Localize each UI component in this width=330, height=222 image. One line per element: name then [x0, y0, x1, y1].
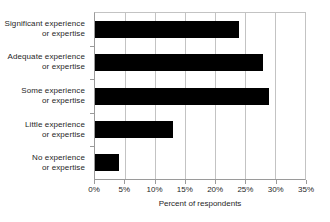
x-axis-tick-label-35: 35%: [298, 185, 314, 195]
y-axis-label-line-2: or expertise: [42, 62, 85, 72]
x-axis-tick-25: [245, 180, 246, 184]
x-axis-tick-label-30: 30%: [268, 185, 284, 195]
y-axis-label-line-1: Significant experience: [5, 19, 85, 29]
x-axis-tick-15: [185, 180, 186, 184]
bar-series: [95, 13, 305, 179]
x-axis-tick-35: [306, 180, 307, 184]
y-axis-label-line-1: Some experience: [21, 86, 85, 96]
x-axis-tick-labels: 0%5%10%15%20%25%30%35%: [94, 185, 306, 196]
x-axis-tick-label-0: 0%: [88, 185, 100, 195]
x-axis-tick-label-25: 25%: [237, 185, 253, 195]
bar-1: [95, 54, 263, 71]
x-axis-tick-label-15: 15%: [177, 185, 193, 195]
y-axis-label-line-2: or expertise: [42, 96, 85, 106]
bar-chart: Significant experience or expertise Adeq…: [0, 0, 330, 222]
x-axis-tick-30: [276, 180, 277, 184]
x-axis-tick-label-20: 20%: [207, 185, 223, 195]
x-axis-ticks: [94, 180, 306, 184]
y-axis-label-significant-experience: Significant experience or expertise: [0, 12, 90, 46]
bar-0: [95, 21, 239, 38]
y-axis-label-no-experience: No experience or expertise: [0, 146, 90, 180]
bar-band: [95, 13, 305, 46]
y-axis-label-line-1: No experience: [32, 153, 85, 163]
plot-area: [94, 12, 306, 180]
bar-band: [95, 79, 305, 112]
bar-band: [95, 113, 305, 146]
x-axis-tick-10: [155, 180, 156, 184]
x-axis-tick-0: [94, 180, 95, 184]
y-axis-label-little-experience: Little experience or expertise: [0, 113, 90, 147]
x-axis-tick-20: [215, 180, 216, 184]
bar-4: [95, 154, 119, 171]
y-axis-label-line-2: or expertise: [42, 130, 85, 140]
x-axis-tick-label-10: 10%: [147, 185, 163, 195]
y-axis-label-line-1: Little experience: [25, 120, 85, 130]
bar-band: [95, 146, 305, 179]
x-axis-title: Percent of respondents: [94, 199, 306, 209]
y-axis-label-line-1: Adequate experience: [7, 52, 85, 62]
x-axis-tick-5: [124, 180, 125, 184]
bar-3: [95, 121, 173, 138]
bar-2: [95, 88, 269, 105]
y-axis-category-labels: Significant experience or expertise Adeq…: [0, 12, 90, 180]
x-axis-tick-label-5: 5%: [119, 185, 131, 195]
bar-band: [95, 46, 305, 79]
y-axis-label-line-2: or expertise: [42, 29, 85, 39]
y-axis-label-some-experience: Some experience or expertise: [0, 79, 90, 113]
y-axis-label-line-2: or expertise: [42, 163, 85, 173]
y-axis-label-adequate-experience: Adequate experience or expertise: [0, 46, 90, 80]
